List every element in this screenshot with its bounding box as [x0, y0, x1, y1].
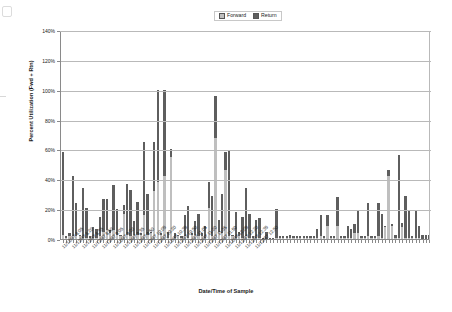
bar-segment-return [275, 209, 277, 237]
gridline [61, 150, 431, 151]
x-axis-tick-mark [399, 240, 400, 243]
y-axis-tick-label: 80% [45, 118, 55, 124]
x-axis-tick-mark [378, 240, 379, 243]
x-axis-tick-mark [321, 240, 322, 243]
bar-segment-forward [313, 238, 315, 239]
bar-segment-forward [330, 238, 332, 239]
bar-segment-return [336, 197, 338, 225]
x-axis-tick-mark [327, 240, 328, 243]
x-axis-tick-mark [300, 240, 301, 243]
bar-segment-forward [408, 238, 410, 239]
bar-segment-return [72, 176, 74, 236]
bar-stack [394, 235, 396, 239]
bar-stack [330, 236, 332, 239]
bar-segment-return [62, 152, 64, 234]
bar-segment-return [224, 152, 226, 170]
bar-segment-return [106, 199, 108, 230]
y-axis-tick-mark [57, 61, 60, 62]
bar-stack [313, 236, 315, 239]
x-axis-tick-mark [355, 240, 356, 243]
bar-segment-return [428, 235, 430, 239]
x-axis-tick-mark [338, 240, 339, 243]
bar-segment-forward [357, 233, 359, 239]
x-axis-tick-mark [294, 240, 295, 243]
bar-stack [421, 235, 423, 239]
gridline [61, 210, 431, 211]
bar-segment-forward [418, 238, 420, 239]
y-axis-tick-mark [57, 91, 60, 92]
bar-segment-return [404, 196, 406, 238]
y-axis-tick-label: 140% [42, 28, 55, 34]
bar-stack [72, 176, 74, 239]
x-axis-tick-mark [348, 240, 349, 243]
bar-stack [391, 224, 393, 239]
x-axis-tick-mark [429, 240, 430, 243]
x-axis-tick-mark [297, 240, 298, 243]
bar-stack [357, 211, 359, 239]
x-axis-tick-mark [310, 240, 311, 243]
y-axis-tick-mark [57, 240, 60, 241]
x-axis-title: Date/Time of Sample [0, 288, 452, 294]
bar-segment-forward [303, 238, 305, 239]
x-axis-tick-mark [314, 240, 315, 243]
bar-stack [163, 90, 165, 239]
bar-segment-forward [306, 238, 308, 239]
x-axis-tick-mark [372, 240, 373, 243]
bar-segment-forward [309, 238, 311, 239]
bar-stack [343, 236, 345, 239]
bar-segment-forward [350, 238, 352, 239]
x-axis-tick-mark [423, 240, 424, 243]
bar-segment-return [153, 142, 155, 191]
x-axis-tick-mark [361, 240, 362, 243]
bar-segment-forward [360, 238, 362, 239]
bar-segment-return [353, 224, 355, 233]
bar-stack [401, 223, 403, 239]
bar-segment-forward [279, 238, 281, 239]
x-axis-tick-mark [358, 240, 359, 243]
bar-stack [381, 214, 383, 239]
bar-segment-forward [299, 238, 301, 239]
bar-segment-return [157, 90, 159, 183]
bar-segment-return [102, 199, 104, 232]
x-axis-tick-mark [375, 240, 376, 243]
bar-stack [425, 235, 427, 239]
x-axis-tick-mark [382, 240, 383, 243]
bar-stack [214, 96, 216, 239]
bar-segment-forward [381, 238, 383, 239]
bar-segment-forward [343, 238, 345, 239]
bar-segment-return [347, 226, 349, 238]
x-axis-tick-mark [406, 240, 407, 243]
bar-segment-return [421, 235, 423, 239]
legend-entry-forward: Forward [219, 13, 246, 19]
x-axis-tick-mark [344, 240, 345, 243]
bar-stack [320, 215, 322, 239]
x-axis-tick-mark [419, 240, 420, 243]
bar-segment-forward [347, 238, 349, 239]
x-axis-tick-mark [334, 240, 335, 243]
y-axis-tick-mark [57, 180, 60, 181]
legend-label-forward: Forward [227, 13, 246, 18]
bar-stack [326, 215, 328, 239]
y-axis-tick-mark [57, 31, 60, 32]
bar-segment-return [112, 185, 114, 230]
bar-stack [377, 203, 379, 239]
bar-segment-forward [404, 238, 406, 239]
bar-stack [360, 236, 362, 239]
gridline [61, 91, 431, 92]
bar-segment-forward [282, 238, 284, 239]
bar-stack [323, 236, 325, 239]
y-axis-tick-label: 20% [45, 207, 55, 213]
x-axis-tick-mark [368, 240, 369, 243]
bar-stack [336, 197, 338, 239]
bar-stack [367, 203, 369, 239]
bar-segment-forward [340, 238, 342, 239]
y-axis-tick-mark [57, 121, 60, 122]
x-axis-tick-mark [280, 240, 281, 243]
x-axis-tick-mark [426, 240, 427, 243]
bar-segment-forward [336, 226, 338, 239]
bar-stack [296, 236, 298, 239]
bar-stack [292, 236, 294, 239]
bar-stack [418, 226, 420, 239]
bar-stack [347, 226, 349, 239]
bar-segment-return [357, 211, 359, 233]
